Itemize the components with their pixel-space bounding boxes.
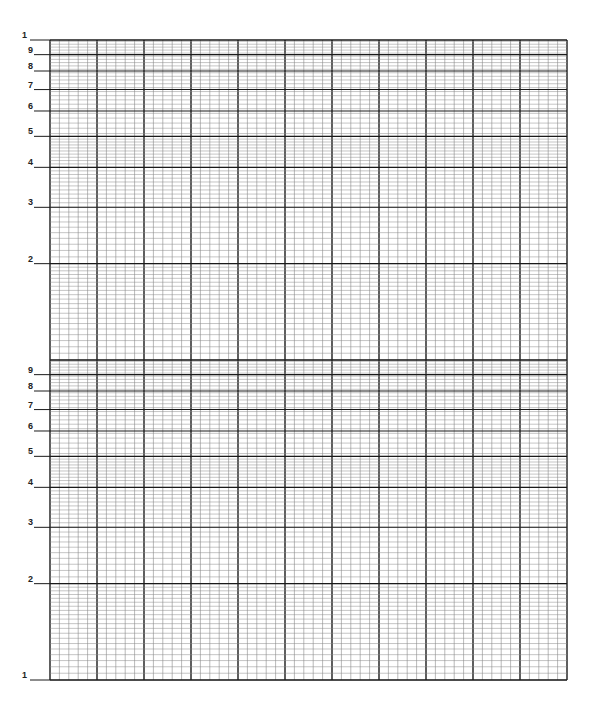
y-axis-label: 4: [28, 477, 33, 487]
y-axis-label: 2: [28, 574, 33, 584]
y-axis-label: 3: [28, 517, 33, 527]
y-axis-label: 3: [28, 197, 33, 207]
y-axis-label: 5: [28, 126, 33, 136]
y-axis-label: 7: [28, 80, 33, 90]
y-axis-label: 5: [28, 446, 33, 456]
y-axis-label: 9: [28, 45, 33, 55]
y-axis-label: 1: [22, 30, 27, 40]
y-axis-label: 9: [28, 365, 33, 375]
y-axis-label: 1: [22, 670, 27, 680]
y-axis-label: 8: [28, 381, 33, 391]
y-axis-label: 4: [28, 157, 33, 167]
y-axis-label: 7: [28, 400, 33, 410]
y-axis-label: 6: [28, 421, 33, 431]
y-axis-label: 8: [28, 61, 33, 71]
semi-log-grid: [0, 0, 594, 714]
y-axis-label: 6: [28, 101, 33, 111]
y-axis-label: 2: [28, 254, 33, 264]
